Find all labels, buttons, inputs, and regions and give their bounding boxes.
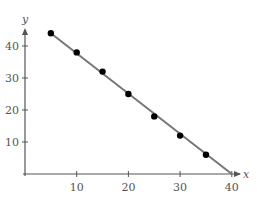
data-point: [74, 49, 80, 55]
scatter-chart: 1020304010203040 x y: [0, 0, 257, 199]
y-tick-label: 10: [5, 136, 19, 149]
data-point: [177, 132, 183, 138]
x-tick-label: 40: [225, 181, 239, 194]
data-point: [48, 30, 54, 36]
x-tick-label: 30: [173, 181, 187, 194]
data-point: [99, 68, 105, 74]
x-tick-label: 10: [70, 181, 84, 194]
x-tick-label: 20: [121, 181, 135, 194]
ticks: 1020304010203040: [5, 40, 239, 194]
y-axis-label: y: [21, 13, 29, 26]
x-axis-label: x: [243, 168, 250, 181]
data-point: [151, 113, 157, 119]
y-tick-label: 20: [5, 104, 19, 117]
data-point: [203, 152, 209, 158]
x-axis-arrow-icon: [234, 171, 241, 177]
y-tick-label: 30: [5, 72, 19, 85]
y-axis-arrow-icon: [22, 28, 28, 35]
data-point: [125, 91, 131, 97]
y-tick-label: 40: [5, 40, 19, 53]
